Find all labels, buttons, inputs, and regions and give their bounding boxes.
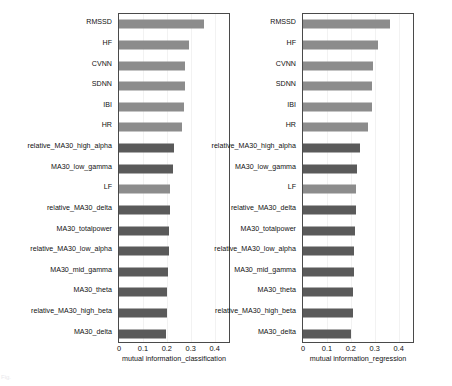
- figure-container: RMSSDHFCVNNSDNNIBIHRrelative_MA30_high_a…: [0, 0, 452, 386]
- category-label-row: HF: [228, 34, 300, 55]
- x-axis: mutual information_regression 00.10.20.3…: [302, 344, 414, 370]
- bar: [119, 226, 169, 235]
- bar: [303, 123, 368, 132]
- category-label-row: MA30_mid_gamma: [0, 261, 116, 282]
- x-tick-label: 0.3: [186, 345, 196, 352]
- category-label-row: relative_MA30_low_alpha: [0, 240, 116, 261]
- bar-row: [303, 323, 413, 343]
- bar: [303, 205, 356, 214]
- category-label-row: relative_MA30_low_alpha: [228, 240, 300, 261]
- category-label: HR: [102, 123, 112, 130]
- bar: [119, 164, 173, 173]
- bar-row: [119, 35, 229, 56]
- category-label-row: relative_MA30_high_alpha: [0, 137, 116, 158]
- bar-row: [303, 97, 413, 118]
- bar: [303, 288, 353, 297]
- x-tick-label: 0.1: [138, 345, 148, 352]
- bar-row: [303, 35, 413, 56]
- bar-row: [303, 158, 413, 179]
- bar-row: [119, 241, 229, 262]
- category-label-row: LF: [0, 178, 116, 199]
- bar: [119, 123, 182, 132]
- figure-caption: Fig.: [1, 374, 11, 380]
- category-label: MA30_totalpower: [56, 226, 112, 233]
- bar: [119, 82, 185, 91]
- bar: [303, 82, 372, 91]
- category-label-row: MA30_low_gamma: [0, 157, 116, 178]
- x-tick-label: 0.3: [370, 345, 380, 352]
- category-label: HF: [103, 40, 113, 47]
- category-label-row: HR: [228, 116, 300, 137]
- category-label: relative_MA30_low_alpha: [30, 247, 112, 254]
- category-label: relative_MA30_low_alpha: [214, 247, 296, 254]
- category-label-row: RMSSD: [228, 13, 300, 34]
- x-tick-label: 0.2: [162, 345, 172, 352]
- category-label-row: MA30_mid_gamma: [228, 261, 300, 282]
- bar: [303, 247, 354, 256]
- category-label-row: MA30_low_gamma: [228, 157, 300, 178]
- bar: [303, 329, 351, 338]
- bar: [119, 61, 185, 70]
- category-label: relative_MA30_delta: [47, 205, 112, 212]
- category-label: relative_MA30_delta: [231, 205, 296, 212]
- bar-row: [303, 241, 413, 262]
- category-label: CVNN: [92, 61, 112, 68]
- category-label: HR: [286, 123, 296, 130]
- bar-row: [119, 303, 229, 324]
- category-label: IBI: [287, 102, 296, 109]
- bar: [119, 247, 169, 256]
- category-label: MA30_delta: [258, 329, 296, 336]
- category-label-row: relative_MA30_high_beta: [228, 302, 300, 323]
- category-label-row: relative_MA30_high_beta: [0, 302, 116, 323]
- bar-row: [119, 200, 229, 221]
- category-label: CVNN: [276, 61, 296, 68]
- bar-row: [303, 117, 413, 138]
- bar: [303, 20, 390, 29]
- category-label-row: MA30_totalpower: [0, 219, 116, 240]
- category-label-row: relative_MA30_high_alpha: [228, 137, 300, 158]
- category-label: SDNN: [92, 82, 112, 89]
- category-label: MA30_theta: [74, 288, 112, 295]
- x-tick-label: 0.2: [346, 345, 356, 352]
- category-label: SDNN: [276, 82, 296, 89]
- category-label: MA30_mid_gamma: [50, 267, 112, 274]
- bar-row: [303, 179, 413, 200]
- category-label-row: MA30_totalpower: [228, 219, 300, 240]
- bar-row: [119, 14, 229, 35]
- bar-row: [119, 158, 229, 179]
- category-label-row: LF: [228, 178, 300, 199]
- category-label: MA30_theta: [258, 288, 296, 295]
- bar-row: [303, 55, 413, 76]
- bar: [119, 205, 170, 214]
- bar: [303, 102, 372, 111]
- category-label-row: RMSSD: [0, 13, 116, 34]
- category-label-row: HF: [0, 34, 116, 55]
- bar: [119, 102, 184, 111]
- bar: [119, 185, 170, 194]
- category-label: MA30_totalpower: [240, 226, 296, 233]
- category-label: MA30_delta: [74, 329, 112, 336]
- category-label: relative_MA30_high_alpha: [212, 144, 296, 151]
- bar: [303, 61, 373, 70]
- panel-body: RMSSDHFCVNNSDNNIBIHRrelative_MA30_high_a…: [228, 8, 452, 343]
- category-label: HF: [287, 40, 297, 47]
- bar-row: [303, 76, 413, 97]
- bar-row: [303, 303, 413, 324]
- bar: [119, 309, 167, 318]
- bar-row: [119, 323, 229, 343]
- bar-row: [119, 282, 229, 303]
- category-label-row: HR: [0, 116, 116, 137]
- bar-row: [303, 282, 413, 303]
- category-label-row: relative_MA30_delta: [228, 199, 300, 220]
- bar: [303, 164, 357, 173]
- category-label-row: SDNN: [228, 75, 300, 96]
- plot-area: [302, 13, 414, 343]
- bar: [303, 226, 355, 235]
- category-label: relative_MA30_high_beta: [31, 309, 112, 316]
- bar-row: [119, 97, 229, 118]
- category-label-row: MA30_theta: [228, 281, 300, 302]
- bar: [303, 309, 353, 318]
- category-label-row: MA30_theta: [0, 281, 116, 302]
- category-label-row: MA30_delta: [228, 322, 300, 343]
- bar-row: [119, 220, 229, 241]
